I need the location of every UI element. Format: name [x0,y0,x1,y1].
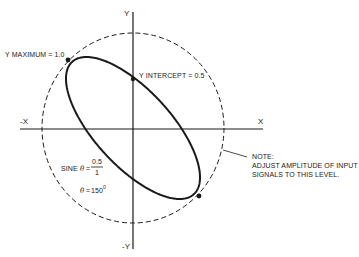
theta-value: θ = 150 0 [80,184,106,195]
sine-prefix: SINE [61,165,78,172]
note-line-1: ADJUST AMPLITUDE OF INPUT [252,162,358,169]
lower-extreme-point [197,194,202,199]
note-leader-line [223,150,247,157]
degree-mark: 0 [103,184,106,190]
theta-degrees: 150 [91,187,103,194]
sine-denominator: 1 [95,169,99,176]
equals-sign-2: = [86,187,90,194]
x-axis-label: X [258,117,264,126]
note-line-2: SIGNALS TO THIS LEVEL. [252,171,339,178]
y-axis-label: Y [124,9,130,18]
neg-x-axis-label: -X [20,117,29,126]
note-title: NOTE: [252,153,274,160]
y-intercept-point [131,77,135,81]
theta-symbol: θ [80,165,85,173]
theta-symbol-2: θ [80,187,85,195]
sine-numerator: 0.5 [92,158,102,165]
lissajous-diagram: Y -Y X -X Y MAXIMUM = 1.0 Y INTERCEPT = … [0,0,359,257]
neg-y-axis-label: -Y [122,242,131,251]
equals-sign: = [86,165,90,172]
y-maximum-point [66,58,71,63]
sine-formula: SINE θ = 0.5 1 [61,158,103,176]
y-maximum-label: Y MAXIMUM = 1.0 [5,51,65,58]
y-intercept-label: Y INTERCEPT = 0.5 [139,72,204,79]
